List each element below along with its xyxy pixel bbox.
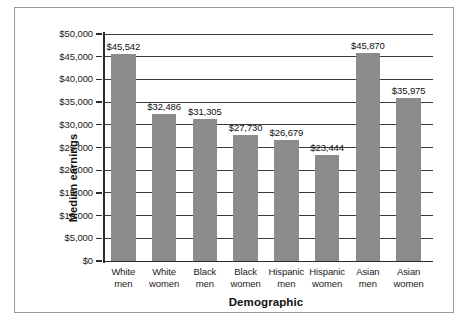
scan-artifact-text: · bbox=[16, 0, 19, 3]
bar[interactable] bbox=[396, 98, 420, 261]
category-label-line2: men bbox=[348, 278, 389, 290]
bar-value-label: $27,730 bbox=[226, 123, 266, 133]
x-axis-title: Demographic bbox=[103, 296, 429, 308]
bar[interactable] bbox=[315, 155, 339, 261]
x-axis-category-label: Hispanicwomen bbox=[307, 266, 348, 289]
y-axis-tick bbox=[96, 238, 102, 239]
x-axis-category-label: Hispanicmen bbox=[266, 266, 307, 289]
figure-frame: Median earnings $0$5,000$10,000$15,000$2… bbox=[14, 7, 454, 313]
x-axis-category-label: Asianwomen bbox=[388, 266, 429, 289]
bar-value-label: $32,486 bbox=[144, 102, 184, 112]
bar[interactable] bbox=[274, 140, 298, 261]
y-axis-tick-label: $50,000 bbox=[35, 29, 93, 39]
category-label-line1: White bbox=[111, 266, 135, 277]
y-axis-tick-label: $0 bbox=[35, 256, 93, 266]
category-label-line1: White bbox=[152, 266, 176, 277]
y-axis-tick bbox=[96, 170, 102, 171]
y-axis-tick bbox=[96, 101, 102, 102]
x-axis-category-label: Blackwomen bbox=[225, 266, 266, 289]
bar-value-label: $35,975 bbox=[389, 86, 429, 96]
y-axis-tick bbox=[96, 33, 102, 34]
category-label-line2: men bbox=[266, 278, 307, 290]
x-axis-category-label: Whitewomen bbox=[144, 266, 185, 289]
chart-page: · Median earnings $0$5,000$10,000$15,000… bbox=[0, 0, 468, 327]
category-label-line1: Asian bbox=[356, 266, 379, 277]
y-axis-tick bbox=[96, 79, 102, 80]
y-axis-tick-label: $5,000 bbox=[35, 233, 93, 243]
bar-value-label: $45,870 bbox=[348, 41, 388, 51]
category-label-line1: Asian bbox=[397, 266, 420, 277]
category-label-line2: women bbox=[144, 278, 185, 290]
bar[interactable] bbox=[356, 53, 380, 261]
category-label-line1: Black bbox=[234, 266, 257, 277]
category-label-line2: men bbox=[185, 278, 226, 290]
bar[interactable] bbox=[152, 114, 176, 261]
bar-value-label: $23,444 bbox=[307, 143, 347, 153]
y-axis-tick-label: $15,000 bbox=[35, 188, 93, 198]
y-axis-tick-labels: $0$5,000$10,000$15,000$20,000$25,000$30,… bbox=[33, 8, 93, 268]
category-label-line2: men bbox=[103, 278, 144, 290]
y-axis-tick-label: $35,000 bbox=[35, 97, 93, 107]
y-axis-tick-label: $10,000 bbox=[35, 211, 93, 221]
x-axis-category-label: Blackmen bbox=[185, 266, 226, 289]
category-label-line2: women bbox=[388, 278, 429, 290]
bar[interactable] bbox=[111, 54, 135, 261]
y-axis-tick-label: $30,000 bbox=[35, 120, 93, 130]
y-axis-tick bbox=[96, 215, 102, 216]
scan-edge-artifact: · bbox=[0, 0, 468, 5]
bar-value-label: $31,305 bbox=[185, 107, 225, 117]
plot-area: $45,542$32,486$31,305$27,730$26,679$23,4… bbox=[103, 34, 429, 261]
y-axis-tick bbox=[96, 124, 102, 125]
category-label-line1: Hispanic bbox=[309, 266, 345, 277]
category-label-line1: Hispanic bbox=[269, 266, 305, 277]
y-axis-tick bbox=[96, 56, 102, 57]
category-label-line2: women bbox=[307, 278, 348, 290]
y-axis-tick-label: $40,000 bbox=[35, 74, 93, 84]
x-axis-category-label: Whitemen bbox=[103, 266, 144, 289]
bar[interactable] bbox=[193, 119, 217, 261]
bar-value-label: $26,679 bbox=[266, 128, 306, 138]
bar-value-label: $45,542 bbox=[103, 42, 143, 52]
y-axis-tick-label: $20,000 bbox=[35, 165, 93, 175]
category-label-line2: women bbox=[225, 278, 266, 290]
category-label-line1: Black bbox=[194, 266, 217, 277]
y-axis-tick-label: $25,000 bbox=[35, 143, 93, 153]
y-axis-tick bbox=[96, 147, 102, 148]
y-axis-tick bbox=[96, 260, 102, 261]
x-axis-category-label: Asianmen bbox=[348, 266, 389, 289]
y-axis-tick-label: $45,000 bbox=[35, 52, 93, 62]
bar[interactable] bbox=[233, 135, 257, 261]
y-axis-tick bbox=[96, 192, 102, 193]
